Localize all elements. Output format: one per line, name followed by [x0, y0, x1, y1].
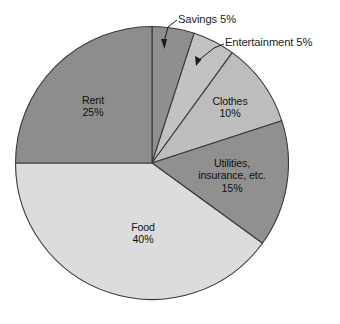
label-utilities: Utilities, insurance, etc. 15% [185, 157, 279, 194]
label-rent-value: 25% [57, 106, 129, 118]
label-rent: Rent 25% [57, 94, 129, 119]
label-food-name: Food [100, 221, 186, 233]
pie-chart: Savings 5% Entertainment 5% Rent 25% Clo… [0, 0, 340, 324]
label-clothes: Clothes 10% [198, 95, 262, 120]
label-clothes-name: Clothes [198, 95, 262, 107]
pie-chart-canvas [0, 0, 340, 324]
label-food-value: 40% [100, 233, 186, 245]
label-rent-name: Rent [57, 94, 129, 106]
label-utilities-line1: Utilities, [185, 157, 279, 169]
label-clothes-value: 10% [198, 107, 262, 119]
label-savings: Savings 5% [178, 13, 236, 25]
label-utilities-value: 15% [185, 182, 279, 194]
label-utilities-line2: insurance, etc. [185, 169, 279, 181]
label-food: Food 40% [100, 221, 186, 246]
label-entertainment: Entertainment 5% [225, 36, 312, 48]
